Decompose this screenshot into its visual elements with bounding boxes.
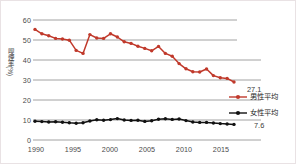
series-line-0 — [35, 29, 234, 82]
series-line-1 — [35, 119, 234, 125]
data-point — [61, 121, 64, 124]
data-point — [171, 55, 174, 58]
data-point — [198, 121, 201, 124]
data-point — [47, 34, 50, 37]
data-point — [123, 118, 126, 121]
legend-item-female: 女性平均 — [250, 109, 278, 116]
data-point — [164, 117, 167, 120]
data-point — [184, 119, 187, 122]
data-point — [33, 28, 36, 31]
data-point — [150, 119, 153, 122]
data-point — [54, 120, 57, 123]
data-point — [81, 52, 84, 55]
data-point — [191, 120, 194, 123]
data-point — [232, 123, 235, 126]
female-end-value-label: 7.6 — [254, 122, 264, 129]
data-point — [143, 120, 146, 123]
data-point — [68, 39, 71, 42]
data-point — [40, 32, 43, 35]
data-point — [157, 45, 160, 48]
data-point — [171, 118, 174, 121]
legend-marks — [229, 95, 247, 115]
data-point — [40, 120, 43, 123]
data-point — [136, 119, 139, 122]
data-point — [102, 37, 105, 40]
chart-figure: 喫煙率(%) 60 50 40 30 20 10 0 1990 1995 200… — [0, 0, 296, 164]
data-point — [177, 117, 180, 120]
data-point — [205, 121, 208, 124]
data-point — [232, 80, 235, 83]
data-point — [212, 74, 215, 77]
data-point — [109, 32, 112, 35]
data-point — [225, 122, 228, 125]
data-point — [47, 120, 50, 123]
data-point — [54, 37, 57, 40]
data-point — [68, 121, 71, 124]
data-point — [33, 120, 36, 123]
data-point — [74, 122, 77, 125]
data-point — [61, 37, 64, 40]
data-point — [157, 118, 160, 121]
data-point — [212, 121, 215, 124]
data-point — [116, 117, 119, 120]
data-point — [219, 122, 222, 125]
data-point — [109, 118, 112, 121]
data-point — [95, 36, 98, 39]
data-point — [191, 70, 194, 73]
data-point — [81, 121, 84, 124]
data-point — [225, 77, 228, 80]
data-point — [219, 76, 222, 79]
data-point — [143, 47, 146, 50]
data-point — [164, 52, 167, 55]
data-point — [205, 67, 208, 70]
data-point — [95, 118, 98, 121]
legend-item-male: 男性平均 — [250, 93, 278, 100]
data-point — [177, 62, 180, 65]
data-point — [129, 119, 132, 122]
data-point — [116, 35, 119, 38]
data-point — [88, 33, 91, 36]
data-point — [184, 67, 187, 70]
data-point — [88, 119, 91, 122]
data-point — [150, 49, 153, 52]
plot-area — [1, 1, 296, 164]
data-point — [74, 49, 77, 52]
data-point — [102, 119, 105, 122]
data-point — [123, 40, 126, 43]
data-point — [198, 70, 201, 73]
data-point — [136, 45, 139, 48]
data-point — [129, 42, 132, 45]
data-series-layer — [33, 28, 235, 126]
